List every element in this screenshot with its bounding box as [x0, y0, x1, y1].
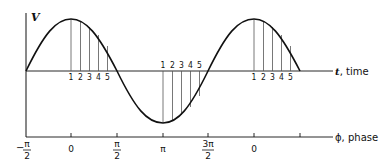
- svg-text:π: π: [24, 139, 30, 149]
- svg-text:2: 2: [170, 60, 175, 70]
- svg-text:2: 2: [205, 151, 211, 161]
- svg-text:4: 4: [188, 60, 193, 70]
- svg-text:4: 4: [96, 72, 101, 82]
- sample-labels-trough: 1 2 3 4 5: [161, 60, 203, 70]
- svg-text:5: 5: [197, 60, 202, 70]
- sample-labels-crest-1: 1 2 3 4 5: [69, 72, 111, 82]
- phase-tick-labels: − π 2 0 π 2 π 3π 2 0: [16, 139, 257, 161]
- svg-text:3π: 3π: [202, 139, 214, 149]
- svg-text:4: 4: [279, 72, 284, 82]
- svg-text:−: −: [16, 142, 24, 153]
- svg-text:3: 3: [179, 60, 184, 70]
- svg-text:1: 1: [252, 72, 257, 82]
- svg-text:π: π: [114, 139, 120, 149]
- svg-text:0: 0: [251, 144, 257, 154]
- svg-text:5: 5: [105, 72, 110, 82]
- time-axis-label: t, time: [335, 66, 369, 77]
- v-axis-label: V: [31, 11, 41, 24]
- svg-text:2: 2: [261, 72, 266, 82]
- svg-text:2: 2: [78, 72, 83, 82]
- sine-wave-phase-diagram: V t, time ϕ, phase − π 2 0 π 2 π 3π 2 0: [0, 0, 384, 164]
- svg-text:1: 1: [161, 60, 166, 70]
- svg-text:3: 3: [270, 72, 275, 82]
- svg-text:1: 1: [69, 72, 74, 82]
- svg-text:5: 5: [288, 72, 293, 82]
- phase-axis-label: ϕ, phase: [335, 132, 378, 143]
- svg-text:0: 0: [68, 144, 74, 154]
- phase-ticks: [71, 133, 300, 137]
- svg-text:2: 2: [114, 151, 120, 161]
- svg-text:2: 2: [24, 151, 30, 161]
- svg-text:3: 3: [87, 72, 92, 82]
- svg-text:π: π: [160, 144, 166, 154]
- sample-labels-crest-2: 1 2 3 4 5: [252, 72, 294, 82]
